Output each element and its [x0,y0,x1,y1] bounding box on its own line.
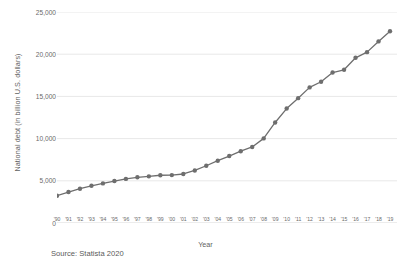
chart-figure: National debt (in billion U.S. dollars) … [0,0,411,264]
x-axis-tick-labels: '90'91'92'93'94'95'96'97'98'99'00'01'02'… [57,216,397,226]
data-point-marker[interactable] [78,186,82,190]
x-axis-tick-label: '10 [283,216,290,223]
x-axis-tick-label: '93 [88,216,95,223]
x-axis-tick-label: '92 [77,216,84,223]
data-point-marker[interactable] [376,39,380,43]
x-axis-tick-label: '13 [318,216,325,223]
data-point-marker[interactable] [250,145,254,149]
x-axis-tick-label: '97 [134,216,141,223]
data-point-marker[interactable] [353,56,357,60]
x-axis-tick-label: '17 [364,216,371,223]
x-axis-tick-label: '14 [329,216,336,223]
x-axis-title: Year [0,240,411,249]
x-axis-tick-label: '99 [157,216,164,223]
y-axis-tick-label: 5,000 [14,177,56,184]
x-axis-tick-label: '02 [191,216,198,223]
x-axis-tick-label: '19 [387,216,394,223]
plot-area [57,12,397,223]
data-point-marker[interactable] [239,149,243,153]
x-axis-tick-label: '11 [295,216,301,223]
data-point-marker[interactable] [296,96,300,100]
data-point-marker[interactable] [135,175,139,179]
x-axis-tick-label: '04 [214,216,221,223]
data-series-line [57,31,390,195]
x-axis-tick-label: '16 [352,216,359,223]
x-axis-tick-label: '06 [237,216,244,223]
x-axis-tick-label: '94 [100,216,107,223]
x-axis-tick-label: '09 [272,216,279,223]
data-point-marker[interactable] [273,120,277,124]
x-axis-tick-label: '95 [111,216,118,223]
x-axis-tick-label: '05 [226,216,233,223]
data-point-marker[interactable] [170,173,174,177]
x-axis-tick-label: '90 [54,216,61,223]
data-point-marker[interactable] [204,164,208,168]
data-point-marker[interactable] [227,154,231,158]
data-point-marker[interactable] [216,159,220,163]
data-point-marker[interactable] [57,194,59,198]
data-point-marker[interactable] [388,29,392,33]
x-axis-tick-label: '15 [341,216,348,223]
x-axis-tick-label: '03 [203,216,210,223]
y-axis-tick-label: 15,000 [14,93,56,100]
y-axis-tick-labels: 05,00010,00015,00020,00025,000 [14,0,56,264]
x-axis-tick-label: '18 [375,216,382,223]
data-point-marker[interactable] [261,136,265,140]
y-axis-tick-label: 25,000 [14,9,56,16]
data-point-marker[interactable] [307,85,311,89]
data-point-marker[interactable] [112,179,116,183]
source-caption: Source: Statista 2020 [51,249,124,258]
data-point-marker[interactable] [319,80,323,84]
data-point-marker[interactable] [124,177,128,181]
data-point-marker[interactable] [365,50,369,54]
data-point-marker[interactable] [101,181,105,185]
data-point-marker[interactable] [284,106,288,110]
data-point-marker[interactable] [330,70,334,74]
line-chart-svg [57,12,397,223]
x-axis-tick-label: '98 [146,216,153,223]
x-axis-tick-label: '91 [65,216,72,223]
data-point-marker[interactable] [342,68,346,72]
x-axis-tick-label: '07 [249,216,256,223]
x-axis-tick-label: '12 [306,216,313,223]
data-point-marker[interactable] [158,173,162,177]
data-point-marker[interactable] [147,174,151,178]
y-axis-tick-label: 20,000 [14,51,56,58]
data-point-marker[interactable] [181,172,185,176]
x-axis-tick-label: '08 [260,216,267,223]
x-axis-tick-label: '01 [180,216,187,223]
x-axis-tick-label: '96 [123,216,130,223]
y-axis-tick-label: 0 [14,220,56,227]
x-axis-tick-label: '00 [168,216,175,223]
y-axis-tick-label: 10,000 [14,135,56,142]
data-point-marker[interactable] [89,184,93,188]
data-point-marker[interactable] [66,190,70,194]
data-point-marker[interactable] [193,168,197,172]
